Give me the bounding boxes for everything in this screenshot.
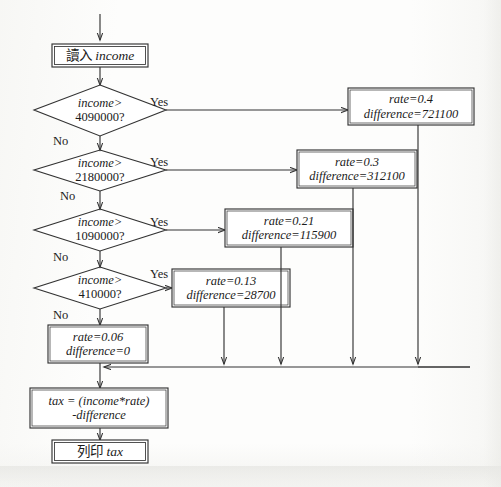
node-decision4-shape	[34, 267, 166, 309]
edge-label-d2-yes: Yes	[150, 156, 168, 169]
edge-label-d3-yes: Yes	[150, 216, 168, 229]
edge-label-d1-yes: Yes	[150, 96, 168, 109]
node-assign1-box	[348, 88, 474, 125]
node-decision2-shape	[34, 150, 166, 191]
node-output-box	[52, 440, 148, 463]
flowchart-page: 讀入 income income> 4090000? Yes No income…	[0, 0, 501, 487]
node-input-box	[52, 44, 148, 67]
edge-label-d2-no: No	[60, 190, 75, 203]
edge-label-d4-no: No	[53, 309, 68, 322]
edge-label-d4-yes: Yes	[150, 268, 168, 281]
edge-label-d1-no: No	[53, 135, 68, 148]
edge-label-d3-no: No	[53, 251, 68, 264]
node-decision1-shape	[34, 85, 166, 136]
node-assign4-box	[172, 269, 290, 307]
node-compute-box	[30, 388, 168, 428]
node-decision3-shape	[34, 209, 166, 251]
node-assign2-box	[297, 150, 417, 188]
node-assign3-box	[225, 209, 353, 247]
node-assign5-box	[48, 325, 148, 363]
flowchart-canvas	[0, 0, 501, 487]
